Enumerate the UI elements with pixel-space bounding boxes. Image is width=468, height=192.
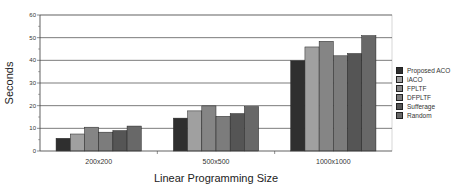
bar <box>99 132 113 151</box>
bars <box>56 36 376 151</box>
legend-item: Proposed ACO <box>396 66 450 75</box>
bar <box>127 126 141 151</box>
legend-label: FPLTF <box>407 85 426 92</box>
legend-item: FPLTF <box>396 84 450 93</box>
bar <box>362 36 376 151</box>
legend-label: Proposed ACO <box>407 67 450 74</box>
legend-item: Sufferage <box>396 102 450 111</box>
bar <box>188 111 202 151</box>
bar <box>291 61 305 151</box>
bar <box>113 131 127 151</box>
y-tick-label: 10 <box>29 125 36 131</box>
legend-swatch <box>396 76 403 83</box>
bar <box>173 118 187 151</box>
x-axis-title: Linear Programming Size <box>154 172 278 184</box>
bar <box>70 134 84 151</box>
bar <box>56 138 70 151</box>
legend-label: DFPLTF <box>407 94 431 101</box>
bar <box>230 114 244 151</box>
legend-label: Random <box>407 112 432 119</box>
y-tick-label: 50 <box>29 35 36 41</box>
bar <box>84 127 98 151</box>
legend-item: DFPLTF <box>396 93 450 102</box>
y-tick-label: 60 <box>29 12 36 18</box>
y-tick-label: 20 <box>29 103 36 109</box>
legend-swatch <box>396 103 403 110</box>
y-tick-label: 40 <box>29 57 36 63</box>
bar <box>216 116 230 151</box>
legend-swatch <box>396 112 403 119</box>
legend: Proposed ACOiACOFPLTFDFPLTFSufferageRand… <box>396 66 450 120</box>
x-category-label: 500x500 <box>203 158 230 165</box>
legend-item: Random <box>396 111 450 120</box>
x-category-label: 1000x1000 <box>316 158 351 165</box>
y-axis-title: Seconds <box>3 61 15 104</box>
legend-label: Sufferage <box>407 103 435 110</box>
bar <box>305 47 319 151</box>
legend-label: iACO <box>407 76 423 83</box>
y-tick-label: 30 <box>29 80 36 86</box>
bar <box>333 56 347 151</box>
bar <box>244 107 258 151</box>
legend-swatch <box>396 94 403 101</box>
legend-item: iACO <box>396 75 450 84</box>
legend-swatch <box>396 67 403 74</box>
y-tick-label: 0 <box>33 148 37 154</box>
x-category-label: 200x200 <box>85 158 112 165</box>
bar <box>348 54 362 151</box>
bar <box>202 106 216 151</box>
legend-swatch <box>396 85 403 92</box>
bar <box>319 41 333 151</box>
